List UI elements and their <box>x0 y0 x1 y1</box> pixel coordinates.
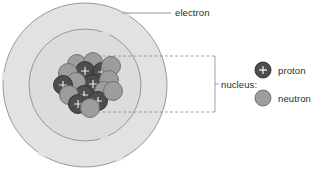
electron-label: electron <box>175 8 210 18</box>
proton-legend-label: proton <box>278 66 306 76</box>
nucleus-neutron-16 <box>81 99 100 118</box>
nucleus-neutron-14 <box>104 82 123 101</box>
legend-neutron-marker <box>255 90 271 106</box>
nucleus-label: nucleus: <box>221 80 257 90</box>
neutron-body <box>104 82 123 101</box>
neutron-body <box>81 99 100 118</box>
neutron-legend-label: neutron <box>278 94 311 104</box>
atom-diagram-canvas: electron nucleus: proton neutron <box>0 0 322 171</box>
legend-markers <box>255 62 271 106</box>
atom-diagram-svg <box>0 0 322 171</box>
